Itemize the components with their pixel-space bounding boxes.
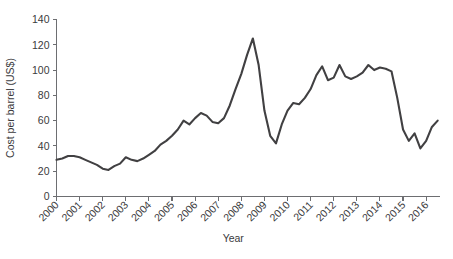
- x-tick-label: 2004: [128, 198, 153, 223]
- x-tick-label: 2012: [313, 198, 338, 223]
- chart-container: 020406080100120140 200020012002200320042…: [0, 0, 453, 259]
- y-axis-ticks: 020406080100120140: [32, 13, 57, 202]
- x-axis-title: Year: [223, 232, 245, 244]
- x-tick-label: 2015: [382, 198, 407, 223]
- x-tick-label: 2003: [105, 198, 130, 223]
- x-tick-label: 2007: [198, 198, 223, 223]
- y-tick-label: 60: [38, 114, 50, 126]
- y-tick-label: 40: [38, 140, 50, 152]
- x-tick-label: 2008: [221, 198, 246, 223]
- x-tick-label: 2002: [82, 198, 107, 223]
- y-tick-label: 100: [32, 64, 50, 76]
- data-series-line: [57, 38, 438, 169]
- x-tick-label: 2000: [36, 198, 61, 223]
- y-axis-title: Cost per barrel (US$): [4, 58, 16, 158]
- x-tick-label: 2014: [359, 198, 384, 223]
- x-tick-label: 2006: [175, 198, 200, 223]
- x-tick-label: 2001: [59, 198, 84, 223]
- x-tick-label: 2009: [244, 198, 269, 223]
- x-tick-label: 2011: [291, 198, 316, 223]
- x-tick-label: 2013: [336, 198, 361, 223]
- x-tick-label: 2005: [151, 198, 176, 223]
- y-tick-label: 120: [32, 39, 50, 51]
- x-tick-label: 2010: [267, 198, 292, 223]
- line-chart: 020406080100120140 200020012002200320042…: [0, 0, 453, 259]
- y-tick-label: 140: [32, 13, 50, 25]
- y-tick-label: 80: [38, 89, 50, 101]
- y-tick-label: 20: [38, 165, 50, 177]
- x-tick-label: 2016: [406, 198, 431, 223]
- y-tick-label: 0: [44, 190, 50, 202]
- x-axis-ticks: 2000200120022003200420052006200720082009…: [36, 197, 431, 224]
